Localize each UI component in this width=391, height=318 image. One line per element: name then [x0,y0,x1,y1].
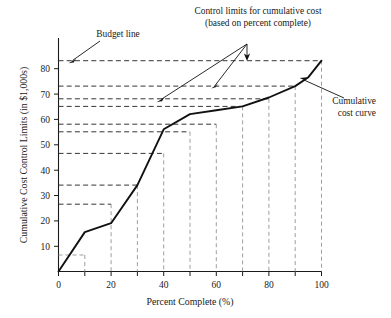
control-limits-annotation: Control limits for cumulative cost (base… [157,6,322,102]
y-tick-label-20: 20 [41,216,51,226]
y-tick-label-80: 80 [41,64,51,74]
y-axis-ticks [54,69,59,247]
budget-line-annotation: Budget line [69,29,140,63]
chart-figure: 80 70 60 50 40 30 20 10 0 20 40 [0,0,391,318]
control-limits-label-line2: (based on percent complete) [205,18,311,29]
x-tick-label-100: 100 [314,280,329,290]
y-tick-label-60: 60 [41,115,51,125]
budget-line-label: Budget line [96,29,139,39]
y-tick-label-50: 50 [41,140,51,150]
x-axis-title: Percent Complete (%) [146,296,233,308]
x-tick-label-80: 80 [264,280,274,290]
cost-curve-leader [304,80,344,98]
cost-curve-label-line1: Cumulative [332,96,376,106]
y-tick-label-40: 40 [41,166,51,176]
control-limits-arrowhead-1-icon [157,98,165,103]
y-axis-title: Cumulative Cost Control Limits (in $1,00… [18,67,30,243]
x-axis-ticks [59,272,322,277]
x-axis-tick-labels: 0 20 40 60 80 100 [56,280,329,290]
cost-curve-annotation: Cumulative cost curve [300,77,376,118]
x-tick-label-0: 0 [56,280,61,290]
y-tick-label-10: 10 [41,242,51,252]
x-tick-label-60: 60 [212,280,222,290]
x-tick-label-20: 20 [106,280,116,290]
control-limits-label-line1: Control limits for cumulative cost [194,6,321,16]
y-tick-label-30: 30 [41,191,51,201]
y-tick-label-70: 70 [41,90,51,100]
cost-curve-label-line2: cost curve [338,108,376,118]
cumulative-cost-control-chart: 80 70 60 50 40 30 20 10 0 20 40 [0,0,391,318]
control-limits-leader-2 [215,44,247,86]
y-axis-tick-labels: 80 70 60 50 40 30 20 10 [41,64,51,252]
control-limits-leader-1 [161,44,247,100]
budget-line-leader [73,41,101,61]
x-tick-label-40: 40 [159,280,169,290]
